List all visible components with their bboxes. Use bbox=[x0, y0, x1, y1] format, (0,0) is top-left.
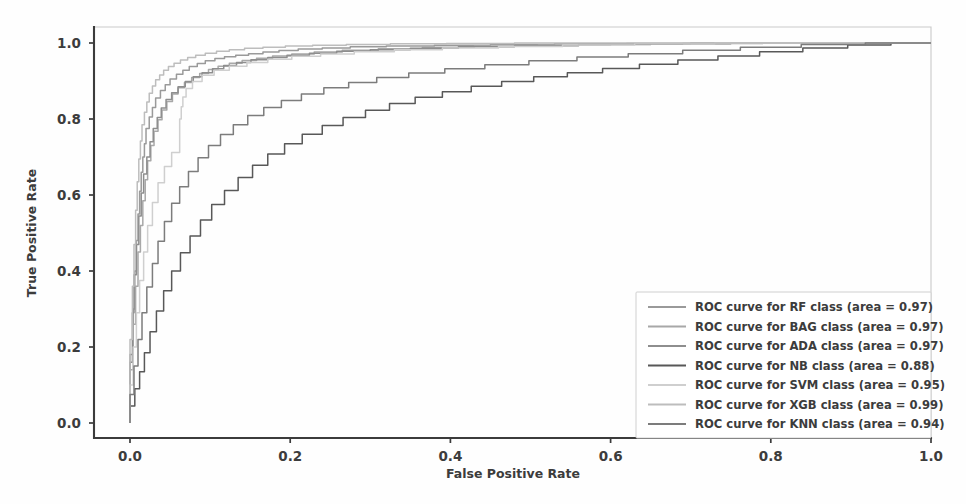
x-tick-label: 0.0 bbox=[118, 448, 142, 464]
chart-legend[interactable]: ROC curve for RF class (area = 0.97)ROC … bbox=[636, 292, 945, 438]
legend-label-nb[interactable]: ROC curve for NB class (area = 0.88) bbox=[695, 359, 935, 373]
legend-label-bag[interactable]: ROC curve for BAG class (area = 0.97) bbox=[695, 320, 943, 334]
legend-label-rf[interactable]: ROC curve for RF class (area = 0.97) bbox=[695, 300, 933, 314]
y-tick-label: 1.0 bbox=[57, 35, 81, 51]
y-tick-label: 0.8 bbox=[57, 111, 81, 127]
legend-label-ada[interactable]: ROC curve for ADA class (area = 0.97) bbox=[695, 339, 944, 353]
y-tick-label: 0.0 bbox=[57, 415, 81, 431]
y-tick-label: 0.2 bbox=[57, 339, 81, 355]
legend-label-knn[interactable]: ROC curve for KNN class (area = 0.94) bbox=[695, 417, 945, 431]
legend-label-svm[interactable]: ROC curve for SVM class (area = 0.95) bbox=[695, 378, 945, 392]
x-tick-label: 0.4 bbox=[438, 448, 462, 464]
x-axis-title: False Positive Rate bbox=[446, 466, 580, 481]
y-tick-label: 0.6 bbox=[57, 187, 81, 203]
roc-plot-svg: 0.00.20.40.60.81.00.00.20.40.60.81.0 ROC… bbox=[0, 0, 966, 504]
x-tick-label: 1.0 bbox=[919, 448, 943, 464]
roc-chart-figure: 0.00.20.40.60.81.00.00.20.40.60.81.0 ROC… bbox=[0, 0, 966, 504]
y-tick-label: 0.4 bbox=[57, 263, 81, 279]
x-tick-label: 0.8 bbox=[759, 448, 783, 464]
x-tick-label: 0.6 bbox=[599, 448, 623, 464]
x-tick-label: 0.2 bbox=[278, 448, 302, 464]
y-axis-title: True Positive Rate bbox=[24, 169, 39, 297]
legend-label-xgb[interactable]: ROC curve for XGB class (area = 0.99) bbox=[695, 398, 943, 412]
